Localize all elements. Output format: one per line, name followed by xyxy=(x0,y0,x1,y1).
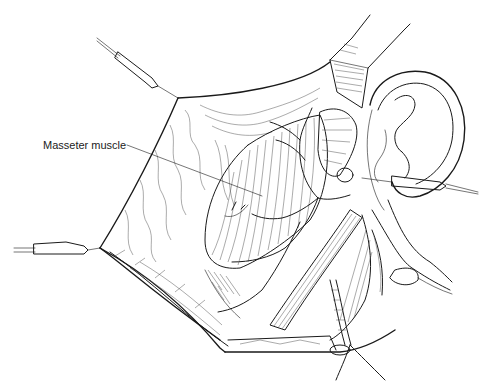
masseter-leader-line xyxy=(127,145,262,196)
masseter-muscle-label: Masseter muscle xyxy=(43,139,126,151)
retractor-left xyxy=(14,242,100,254)
illustration-drawing xyxy=(0,0,489,389)
retractor-top-left xyxy=(97,38,178,98)
masseter-muscle xyxy=(205,115,327,268)
retractor-right xyxy=(362,176,478,194)
anatomical-illustration: Masseter muscle xyxy=(0,0,489,389)
skin-flap xyxy=(100,62,452,352)
parotid-gland xyxy=(318,109,357,182)
upper-band xyxy=(330,15,410,108)
ear xyxy=(367,71,464,210)
